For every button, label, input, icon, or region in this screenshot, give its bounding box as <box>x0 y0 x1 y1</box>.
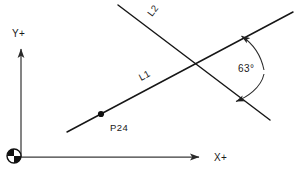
line-L2-group: L2 <box>118 2 270 120</box>
angle-dimension-group: 63° <box>236 36 264 102</box>
coordinate-axes: X+ Y+ <box>7 28 227 163</box>
point-P24-marker <box>98 111 104 117</box>
x-axis-label: X+ <box>214 152 227 163</box>
diagram-canvas: X+ Y+ L1 L2 P24 63° <box>0 0 297 175</box>
origin-datum-icon <box>7 149 21 163</box>
line-L2-label: L2 <box>145 2 161 18</box>
angle-value-label: 63° <box>238 63 254 74</box>
point-P24-group: P24 <box>98 111 128 133</box>
geometry-diagram: X+ Y+ L1 L2 P24 63° <box>0 0 297 175</box>
line-L1-label: L1 <box>137 68 152 83</box>
point-P24-label: P24 <box>110 122 128 133</box>
y-axis-label: Y+ <box>12 28 25 39</box>
